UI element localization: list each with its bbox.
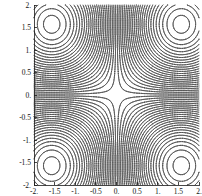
contour-line [34,5,199,185]
contour-line [34,5,199,185]
contour-line [34,5,199,185]
contour-line [34,5,199,185]
x-tick-label: 0.5 [132,187,142,196]
y-tick-label: -1. [23,136,31,145]
contour-line [34,5,199,185]
contour-line [34,5,199,185]
x-tick-label: -2. [30,187,38,196]
x-axis-tick-labels: -2.-1.5-1.-0.50.0.51.1.52. [30,187,202,196]
x-tick-label: 1. [155,187,161,196]
contour-line [34,5,199,185]
contour-line [34,5,199,185]
contour-line [34,5,199,185]
contour-line [34,5,199,185]
contour-line [34,5,199,185]
contour-line [34,5,199,185]
contour-line [34,5,199,185]
contour-line [34,5,199,185]
contour-line [44,15,190,174]
contour-line [34,5,199,185]
y-tick-label: -0.5 [19,113,31,122]
contour-line [34,5,199,185]
contour-line [34,5,199,185]
y-tick-label: 2. [25,1,31,10]
x-tick-label: 2. [196,187,202,196]
contour-line [34,5,199,185]
contour-line [34,5,199,185]
contour-line [34,5,199,185]
contour-line [34,5,199,185]
y-tick-label: 1. [25,46,31,55]
contour-plot: -2.-1.5-1.-0.50.0.51.1.52. 2.1.51.0.50.-… [0,0,202,196]
contour-line [34,5,199,185]
contour-line [37,9,195,182]
contour-line [34,5,199,185]
contour-line [34,5,199,185]
contour-line [34,5,199,185]
y-tick-label: 0.5 [22,68,32,77]
contour-line [34,5,199,185]
y-tick-label: -2. [23,181,31,190]
contour-line [34,5,199,185]
y-tick-label: 0. [25,91,31,100]
y-tick-label: 1.5 [22,23,32,32]
y-tick-label: -1.5 [19,158,31,167]
contour-line [34,5,199,185]
contour-line [34,5,199,185]
contour-line [34,5,199,185]
contour-lines [34,5,199,185]
x-tick-label: -1. [71,187,79,196]
contour-line [34,5,199,185]
contour-line [34,5,199,185]
contour-plot-figure: -2.-1.5-1.-0.50.0.51.1.52. 2.1.51.0.50.-… [0,0,202,196]
contour-line [34,5,199,185]
contour-line [34,5,199,185]
x-tick-label: -0.5 [90,187,102,196]
contour-line [37,9,195,182]
contour-line [34,5,199,185]
contour-line [34,5,199,185]
contour-line [34,5,199,185]
contour-line [44,15,190,174]
contour-line [34,5,199,185]
x-tick-label: -1.5 [49,187,61,196]
contour-line [34,5,199,185]
contour-line [34,5,199,185]
contour-line [34,5,199,185]
y-axis-tick-labels: 2.1.51.0.50.-0.5-1.-1.5-2. [19,1,31,190]
contour-line [34,5,199,185]
contour-line [34,5,199,185]
x-tick-label: 0. [114,187,120,196]
contour-line [34,5,199,185]
contour-line [34,5,199,185]
contour-line [34,5,199,185]
x-tick-label: 1.5 [174,187,184,196]
